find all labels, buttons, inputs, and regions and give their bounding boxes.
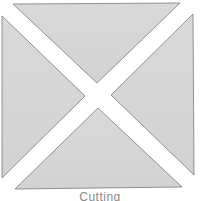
diagram-caption: Cutting <box>0 190 200 201</box>
cutting-diagram <box>0 0 200 201</box>
